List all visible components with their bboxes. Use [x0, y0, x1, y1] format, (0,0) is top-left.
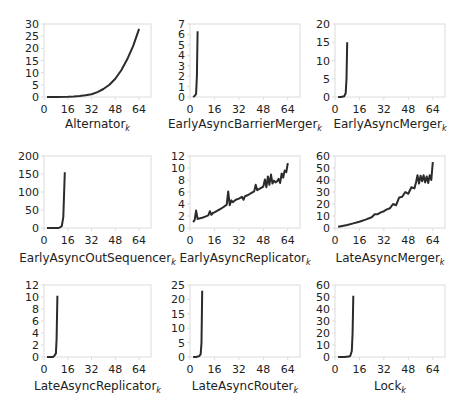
data-line: [338, 162, 433, 227]
x-tick-label: 48: [108, 363, 122, 376]
data-line: [47, 29, 139, 97]
small-multiples-figure: 051015202530016324864Alternatork01234567…: [0, 0, 463, 411]
y-tick-label: 20: [25, 42, 39, 55]
x-tick-label: 0: [41, 363, 48, 376]
plot-frame: [190, 24, 300, 97]
y-tick-label: 25: [25, 30, 39, 43]
y-tick-label: 4: [32, 327, 39, 340]
subplot-lateasyncreplicator: 024681012016324864LateAsyncReplicatork: [25, 279, 161, 395]
y-tick-label: 10: [316, 55, 330, 68]
y-tick-label: 0: [323, 91, 330, 104]
y-tick-label: 0: [32, 222, 39, 235]
x-tick-label: 32: [377, 234, 391, 247]
y-tick-label: 6: [178, 186, 185, 199]
y-tick-label: 6: [32, 315, 39, 328]
x-tick-label: 48: [401, 103, 415, 116]
x-tick-label: 32: [377, 103, 391, 116]
y-tick-label: 7: [178, 18, 185, 31]
data-line: [47, 296, 57, 357]
x-axis-label: Alternatork: [65, 117, 130, 133]
x-tick-label: 64: [281, 363, 295, 376]
x-tick-label: 16: [61, 234, 75, 247]
y-tick-label: 5: [178, 337, 185, 350]
x-tick-label: 64: [281, 234, 295, 247]
y-tick-label: 25: [171, 279, 185, 292]
subplot-lateasyncmerger: 0102030405060016324864LateAsyncMergerk: [316, 150, 445, 267]
x-tick-label: 48: [256, 103, 270, 116]
y-tick-label: 10: [316, 210, 330, 223]
y-tick-label: 10: [171, 322, 185, 335]
x-tick-label: 48: [256, 363, 270, 376]
y-tick-label: 0: [32, 351, 39, 364]
x-tick-label: 0: [187, 234, 194, 247]
plot-frame: [44, 156, 151, 228]
y-tick-label: 15: [25, 55, 39, 68]
x-tick-label: 16: [207, 103, 221, 116]
figure-canvas: 051015202530016324864Alternatork01234567…: [0, 0, 463, 411]
x-tick-label: 0: [332, 234, 339, 247]
x-tick-label: 32: [85, 363, 99, 376]
x-tick-label: 0: [187, 103, 194, 116]
y-tick-label: 50: [25, 204, 39, 217]
y-tick-label: 10: [316, 339, 330, 352]
x-axis-label: LateAsyncReplicatork: [34, 379, 161, 395]
y-tick-label: 10: [25, 291, 39, 304]
x-axis-label: LateAsyncMergerk: [336, 251, 445, 267]
x-tick-label: 16: [61, 103, 75, 116]
x-tick-label: 48: [401, 363, 415, 376]
y-tick-label: 12: [25, 279, 39, 292]
x-tick-label: 64: [132, 103, 146, 116]
data-line: [193, 163, 288, 222]
y-tick-label: 15: [171, 308, 185, 321]
subplot-earlyasyncbarriermerger: 01234567016324864EarlyAsyncBarrierMerger…: [168, 18, 322, 133]
y-tick-label: 50: [316, 291, 330, 304]
y-tick-label: 20: [316, 198, 330, 211]
plot-frame: [44, 24, 151, 97]
y-tick-label: 200: [18, 150, 39, 163]
y-tick-label: 10: [25, 67, 39, 80]
x-axis-label: EarlyAsyncMergerk: [333, 117, 446, 133]
x-tick-label: 48: [256, 234, 270, 247]
data-line: [193, 291, 202, 357]
data-line: [338, 42, 347, 97]
x-tick-label: 48: [401, 234, 415, 247]
x-tick-label: 0: [187, 363, 194, 376]
y-tick-label: 150: [18, 168, 39, 181]
x-tick-label: 32: [232, 103, 246, 116]
data-line: [47, 172, 65, 228]
y-tick-label: 50: [316, 162, 330, 175]
x-tick-label: 16: [352, 363, 366, 376]
x-tick-label: 0: [332, 363, 339, 376]
y-tick-label: 0: [178, 351, 185, 364]
x-tick-label: 64: [426, 234, 440, 247]
y-tick-label: 10: [171, 162, 185, 175]
y-tick-label: 40: [316, 303, 330, 316]
x-axis-label: EarlyAsyncReplicatork: [179, 251, 310, 267]
y-tick-label: 0: [178, 222, 185, 235]
x-tick-label: 0: [332, 103, 339, 116]
x-tick-label: 16: [352, 234, 366, 247]
y-tick-label: 0: [32, 91, 39, 104]
x-tick-label: 64: [426, 103, 440, 116]
y-tick-label: 8: [178, 174, 185, 187]
plot-frame: [190, 285, 300, 357]
x-tick-label: 16: [352, 103, 366, 116]
x-tick-label: 32: [232, 234, 246, 247]
x-tick-label: 32: [377, 363, 391, 376]
plot-frame: [44, 285, 151, 357]
x-tick-label: 0: [41, 103, 48, 116]
y-tick-label: 30: [25, 18, 39, 31]
x-axis-label: EarlyAsyncOutSequencerk: [19, 251, 176, 267]
y-tick-label: 4: [178, 198, 185, 211]
y-tick-label: 100: [18, 186, 39, 199]
subplot-alternator: 051015202530016324864Alternatork: [25, 18, 151, 133]
subplot-lock: 0102030405060016324864Lockk: [316, 279, 445, 395]
x-tick-label: 48: [108, 234, 122, 247]
x-axis-label: EarlyAsyncBarrierMergerk: [168, 117, 322, 133]
subplot-earlyasyncreplicator: 024681012016324864EarlyAsyncReplicatork: [171, 150, 311, 267]
y-tick-label: 30: [316, 186, 330, 199]
x-tick-label: 32: [232, 363, 246, 376]
y-tick-label: 12: [171, 150, 185, 163]
y-tick-label: 60: [316, 279, 330, 292]
x-axis-label: LateAsyncRouterk: [192, 379, 299, 395]
